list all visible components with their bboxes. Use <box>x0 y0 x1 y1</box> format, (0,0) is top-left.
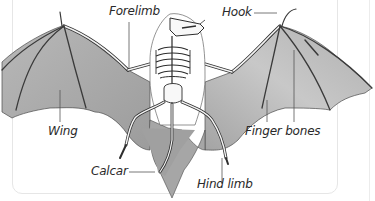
label-forelimb: Forelimb <box>109 4 160 18</box>
label-hind-limb: Hind limb <box>197 177 253 191</box>
label-calcar: Calcar <box>91 164 128 178</box>
label-hook: Hook <box>222 5 252 19</box>
label-finger-bones: Finger bones <box>245 124 320 138</box>
label-wing: Wing <box>48 124 78 138</box>
bat-illustration <box>0 0 375 201</box>
